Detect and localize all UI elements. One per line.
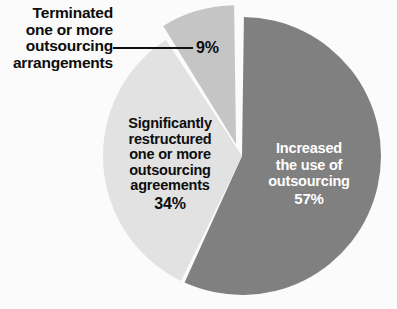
slice-label-terminated-line2: one or more <box>0 22 113 39</box>
slice-label-increased-line3: outsourcing <box>268 173 350 189</box>
slice-label-terminated-line3: outsourcing <box>0 38 113 55</box>
slice-label-restructured-line1: Significantly <box>128 115 212 131</box>
slice-value-increased: 57% <box>256 190 362 208</box>
slice-label-restructured: Significantly restructured one or more o… <box>118 116 222 213</box>
slice-label-restructured-line4: outsourcing <box>129 162 211 178</box>
slice-label-terminated-line4: arrangements <box>0 55 113 72</box>
pie-chart: Terminated one or more outsourcing arran… <box>0 0 397 309</box>
slice-label-restructured-line5: agreements <box>130 177 209 193</box>
slice-label-terminated-line1: Terminated <box>0 5 113 22</box>
slice-label-increased: Increased the use of outsourcing 57% <box>256 140 362 208</box>
slice-value-restructured: 34% <box>118 194 222 213</box>
slice-label-restructured-line2: restructured <box>128 131 211 147</box>
slice-label-increased-line1: Increased <box>276 140 342 156</box>
slice-value-terminated: 9% <box>196 39 219 57</box>
slice-label-increased-line2: the use of <box>276 157 342 173</box>
slice-label-restructured-line3: one or more <box>129 146 211 162</box>
slice-label-terminated: Terminated one or more outsourcing arran… <box>0 5 113 71</box>
